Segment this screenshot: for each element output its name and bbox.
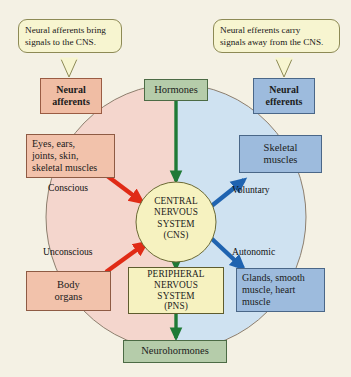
neural-afferents-line2: afferents (44, 96, 98, 108)
body-organs-line2: organs (30, 291, 107, 303)
box-body-organs: Body organs (26, 271, 111, 311)
callout-tail-afferent (60, 59, 78, 77)
box-pns: PERIPHERAL NERVOUS SYSTEM (PNS) (128, 267, 224, 314)
callout-neural-efferents: Neural efferents carry signals away from… (213, 19, 340, 53)
pns-line4: (PNS) (132, 301, 220, 312)
glands-line1: Glands, smooth (242, 272, 321, 284)
cns-line2: NERVOUS (141, 207, 211, 218)
box-hormones: Hormones (144, 79, 208, 101)
neural-efferents-line1: Neural (257, 84, 311, 96)
label-conscious: Conscious (48, 182, 88, 193)
sensory-line2: joints, skin, (32, 150, 111, 162)
glands-line3: muscle (242, 296, 321, 308)
box-skeletal-muscles: Skeletal muscles (239, 135, 322, 173)
callout-neural-afferents: Neural afferents bring signals to the CN… (18, 19, 122, 53)
neural-afferents-line1: Neural (44, 84, 98, 96)
pns-line1: PERIPHERAL (132, 269, 220, 280)
callout-efferent-line2: signals away from the CNS. (220, 36, 333, 48)
pns-line2: NERVOUS (132, 280, 220, 291)
glands-line2: muscle, heart (242, 284, 321, 296)
sensory-line3: skeletal muscles (32, 162, 111, 174)
box-neural-efferents: Neural efferents (253, 78, 315, 114)
box-neural-afferents: Neural afferents (40, 78, 102, 114)
callout-afferent-line1: Neural afferents bring (25, 24, 115, 36)
cns-line4: (CNS) (141, 230, 211, 241)
box-sensory-receptors: Eyes, ears, joints, skin, skeletal muscl… (26, 134, 115, 178)
body-organs-line1: Body (30, 279, 107, 291)
label-autonomic: Autonomic (232, 246, 275, 257)
neurohormones-label: Neurohormones (127, 345, 223, 357)
cns-line3: SYSTEM (141, 219, 211, 230)
cns-line1: CENTRAL (141, 196, 211, 207)
callout-efferent-line1: Neural efferents carry (220, 24, 333, 36)
sensory-line1: Eyes, ears, (32, 138, 111, 150)
callout-afferent-line2: signals to the CNS. (25, 36, 115, 48)
hormones-label: Hormones (148, 84, 204, 96)
box-glands-smooth-muscle: Glands, smooth muscle, heart muscle (236, 268, 325, 312)
label-voluntary: Voluntary (232, 184, 270, 195)
label-unconscious: Unconscious (43, 246, 93, 257)
pns-line3: SYSTEM (132, 291, 220, 302)
skeletal-line1: Skeletal (243, 142, 318, 154)
callout-tail-efferent (275, 59, 293, 77)
cns-label: CENTRAL NERVOUS SYSTEM (CNS) (141, 196, 211, 241)
diagram-canvas: Neural afferents bring signals to the CN… (0, 0, 351, 377)
skeletal-line2: muscles (243, 154, 318, 166)
box-neurohormones: Neurohormones (123, 340, 227, 363)
neural-efferents-line2: efferents (257, 96, 311, 108)
